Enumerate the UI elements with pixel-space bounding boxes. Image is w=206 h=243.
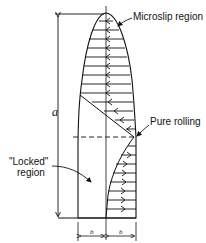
microslip-leader	[118, 18, 132, 26]
locked-boundary-curve	[106, 137, 134, 218]
pure-rolling-label: Pure rolling	[150, 116, 201, 127]
dim-a-label: a	[52, 105, 58, 119]
traction-diagram: a b b Microslip region Pure rolling "Loc…	[0, 0, 206, 243]
slip-boundary-diagonal	[80, 95, 134, 137]
dim-b-right-label: b	[119, 228, 123, 236]
rolling-arrows	[106, 146, 136, 209]
microslip-label: Microslip region	[133, 11, 203, 22]
dim-b-left-label: b	[90, 228, 94, 236]
pure-rolling-leader	[137, 125, 149, 136]
locked-label-line2: region	[17, 167, 45, 178]
locked-label-line1: "Locked"	[9, 156, 49, 167]
